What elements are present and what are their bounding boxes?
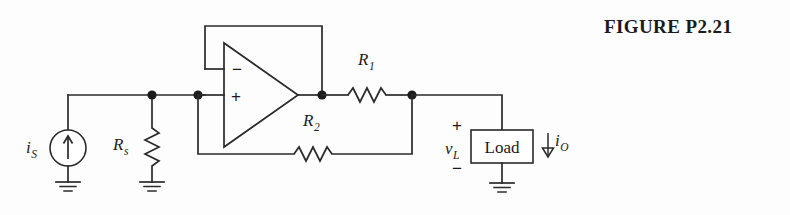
opamp: − + [198,43,322,147]
figure-caption: FIGURE P2.21 [604,16,732,38]
r2-right-path [332,95,412,154]
load-branch: Load [412,95,533,192]
vl-minus-sign: − [452,159,462,178]
current-source-branch: iS [26,95,86,191]
load-voltage-label: vL [445,139,459,161]
r2-zigzag [294,147,332,161]
resistor-r1-label: R1 [357,50,375,72]
r1-zigzag [348,88,386,102]
resistor-rs-label: Rs [112,135,129,157]
vl-plus-sign: + [452,116,462,135]
resistor-r2-label: R2 [302,111,320,133]
resistor-rs-branch: Rs [112,95,164,191]
load-voltage-label-group: + vL − [445,116,462,178]
opamp-plus-label: + [231,87,241,106]
output-current-label: iO [555,131,569,153]
ground-source [56,182,80,191]
figure-page: iS Rs [0,0,790,215]
current-source-label: iS [26,138,37,160]
load-box-label: Load [485,138,520,157]
opamp-minus-label: − [232,60,242,79]
output-current-group: iO [543,131,570,157]
resistor-r1-branch: R1 [322,50,412,102]
ground-load [490,183,514,192]
rs-zigzag [145,128,159,166]
negative-feedback-wire [205,26,322,95]
r2-left-path [198,95,294,154]
ground-rs [140,182,164,191]
node-rs-junction [147,90,156,99]
